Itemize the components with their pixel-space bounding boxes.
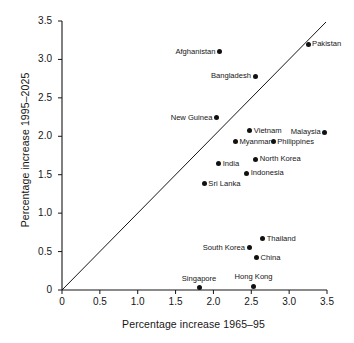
data-point bbox=[197, 285, 202, 290]
x-tick-label: 0 bbox=[47, 296, 77, 307]
data-point-label: North Korea bbox=[260, 155, 301, 163]
y-tick-label: 1.5 bbox=[22, 169, 52, 180]
y-tick-label: 2.5 bbox=[22, 92, 52, 103]
y-tick-label: 1.0 bbox=[22, 207, 52, 218]
y-tick-label: 0 bbox=[22, 284, 52, 295]
data-point-label: Vietnam bbox=[254, 127, 282, 135]
data-point-label: Sri Lanka bbox=[208, 180, 240, 188]
data-point bbox=[244, 171, 249, 176]
x-tick-label: 1.0 bbox=[123, 296, 153, 307]
data-point bbox=[271, 139, 276, 144]
x-tick-label: 1.5 bbox=[161, 296, 191, 307]
x-tick-label: 3.0 bbox=[274, 296, 304, 307]
y-tick-label: 2.0 bbox=[22, 130, 52, 141]
data-point bbox=[253, 74, 258, 79]
data-point-label: Singapore bbox=[182, 275, 217, 283]
data-point-label: New Guinea bbox=[171, 114, 213, 122]
y-tick-label: 0.5 bbox=[22, 246, 52, 257]
y-tick-label: 3.0 bbox=[22, 53, 52, 64]
data-point-label: Indonesia bbox=[251, 169, 284, 177]
data-point-label: China bbox=[261, 254, 281, 262]
y-tick-label: 3.5 bbox=[22, 15, 52, 26]
data-point bbox=[251, 284, 256, 289]
data-point-label: Myanmar bbox=[239, 138, 271, 146]
data-point-label: Afghanistan bbox=[175, 48, 215, 56]
data-point-label: South Korea bbox=[203, 244, 245, 252]
x-tick-label: 3.5 bbox=[312, 296, 342, 307]
data-point bbox=[306, 42, 311, 47]
data-point-label: Hong Kong bbox=[235, 273, 273, 281]
data-point-label: Malaysia bbox=[291, 128, 321, 136]
data-point-label: Bangladesh bbox=[211, 72, 251, 80]
data-point-label: Philippines bbox=[277, 138, 314, 146]
x-tick-label: 2.0 bbox=[198, 296, 228, 307]
x-tick-label: 2.5 bbox=[236, 296, 266, 307]
data-point bbox=[247, 245, 252, 250]
data-point-label: India bbox=[223, 160, 239, 168]
x-axis-title: Percentage increase 1965–95 bbox=[62, 318, 325, 330]
data-point-label: Thailand bbox=[267, 235, 296, 243]
data-point-label: Pakistan bbox=[312, 40, 341, 48]
x-tick-label: 0.5 bbox=[85, 296, 115, 307]
scatter-chart-figure: Percentage increase 1995–2025 00.51.01.5… bbox=[0, 0, 354, 343]
